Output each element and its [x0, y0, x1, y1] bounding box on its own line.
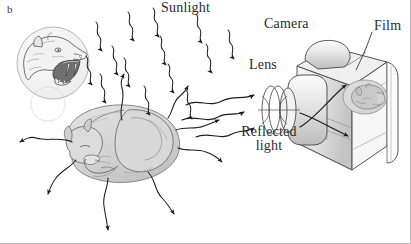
film-label: Film: [374, 19, 401, 33]
lens-label: Lens: [249, 58, 277, 72]
inverted-cat-image-icon: [343, 80, 387, 114]
reflected-light-label: Reflected light: [231, 125, 307, 154]
sleeping-cat-icon: [64, 105, 179, 183]
figure-illustration: [0, 0, 411, 244]
reflected-light-label-line2: light: [231, 139, 307, 153]
sunlight-rays: [86, 8, 234, 119]
panel-label: b: [7, 4, 13, 15]
sunlight-label: Sunlight: [161, 1, 210, 15]
figure-panel-b: b Sunlight Camera Film Lens Reflected li…: [0, 0, 411, 244]
reflected-light-label-line1: Reflected: [241, 124, 296, 139]
camera-label: Camera: [264, 17, 309, 31]
roaring-big-cat-head-icon: [17, 27, 89, 121]
